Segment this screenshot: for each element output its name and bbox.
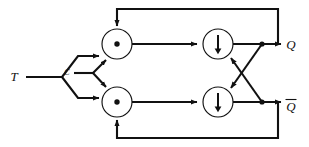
qbar-junction-dot [259,99,264,104]
output-label-q: Q [286,37,296,52]
and-to-nor-wires [132,44,197,102]
clock-branch-to-and-bottom [93,73,106,87]
gate-and-top[interactable] [102,29,132,59]
input-clock-net [74,60,106,87]
cross-coupling-net [231,41,265,104]
and-top-dot-icon [114,41,119,46]
feedback-top-net [117,9,278,44]
feedback-bottom-net [117,102,278,138]
input-label-t: T [10,69,18,84]
t-branch-to-and-bottom [62,77,99,98]
input-t-net [26,56,99,98]
clock-branch-to-and-top [93,60,106,73]
output-label-qbar: Q [286,99,296,114]
and-bottom-dot-icon [114,99,119,104]
input-label-clock: C [64,68,70,77]
feedback-top-wire [117,9,278,44]
circuit-canvas: T C Q Q [0,0,309,147]
feedback-bottom-wire [117,102,278,138]
gate-nor-top[interactable] [203,29,233,59]
gate-nor-bottom[interactable] [203,87,233,117]
gate-and-bottom[interactable] [102,87,132,117]
q-junction-dot [259,41,264,46]
circuit-diagram: T C Q Q [0,0,309,147]
